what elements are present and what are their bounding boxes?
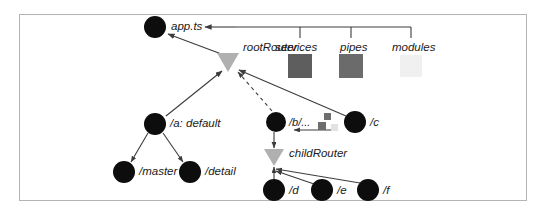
router-childrouter bbox=[264, 149, 284, 166]
label-b: /b/... bbox=[289, 117, 310, 128]
edge-rootrouter-to-app bbox=[168, 34, 224, 55]
edge-a-to-master bbox=[131, 133, 148, 162]
edge-a-to-detail bbox=[163, 133, 183, 162]
router-triangles bbox=[217, 53, 284, 166]
label-modules: modules bbox=[392, 42, 435, 54]
node-e bbox=[311, 179, 333, 201]
label-detail: /detail bbox=[205, 166, 236, 178]
edge-b-to-rootrouter-lazy bbox=[238, 72, 272, 111]
node-f bbox=[357, 179, 379, 201]
label-f: /f bbox=[383, 185, 389, 197]
router-rootrouter bbox=[217, 53, 239, 72]
label-app-ts: app.ts bbox=[171, 21, 202, 33]
label-e: /e bbox=[337, 185, 347, 197]
edge-a-to-rootrouter bbox=[166, 71, 222, 116]
square-bottom-icon bbox=[318, 122, 326, 130]
label-master: /master bbox=[139, 166, 177, 178]
label-childrouter: childRouter bbox=[289, 148, 347, 160]
label-d: /d bbox=[289, 185, 299, 197]
label-services: services bbox=[275, 42, 317, 54]
label-c: /c bbox=[370, 117, 379, 129]
node-a bbox=[144, 113, 166, 135]
box-pipes bbox=[339, 54, 363, 78]
node-master bbox=[113, 161, 135, 183]
square-faded-icon bbox=[331, 124, 338, 131]
box-services bbox=[288, 54, 312, 78]
node-app bbox=[144, 16, 166, 38]
label-pipes: pipes bbox=[340, 42, 368, 54]
label-a-default: /a: default bbox=[170, 118, 221, 130]
square-top-icon bbox=[324, 113, 331, 120]
node-c bbox=[344, 111, 366, 133]
node-b bbox=[266, 112, 286, 132]
node-detail bbox=[179, 161, 201, 183]
edge-e-to-childrouter bbox=[276, 171, 314, 184]
diagram-canvas: app.ts /a: default /master /detail /b/..… bbox=[0, 0, 546, 217]
box-modules bbox=[400, 55, 422, 77]
node-d bbox=[263, 179, 285, 201]
diagram-edges bbox=[0, 0, 546, 217]
